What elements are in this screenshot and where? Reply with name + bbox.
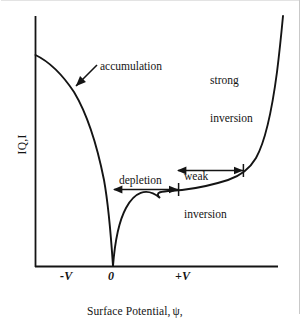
tick-positive-v: +V — [175, 270, 190, 283]
annotation-strong-inversion-line2: inversion — [210, 112, 253, 125]
annotation-weak-inversion: weak inversion — [184, 144, 227, 247]
annotation-accumulation: accumulation — [100, 60, 162, 73]
annotation-strong-inversion-line1: strong — [210, 74, 253, 87]
annotation-strong-inversion: strong inversion — [210, 48, 253, 151]
psi-symbol: ψ, — [170, 305, 182, 317]
x-axis-title: Surface Potential,ψ, — [75, 292, 183, 322]
annotation-depletion: depletion — [119, 174, 162, 187]
tick-zero: 0 — [108, 270, 114, 283]
x-axis-title-text: Surface Potential, — [87, 305, 171, 317]
accumulation-pointer-arrow — [76, 65, 97, 86]
annotation-weak-inversion-line2: inversion — [184, 208, 227, 221]
annotation-weak-inversion-line1: weak — [184, 170, 227, 183]
y-axis-title: IQ,I — [16, 114, 29, 174]
curve-accumulation-branch — [36, 55, 114, 266]
tick-negative-v: -V — [60, 270, 72, 283]
